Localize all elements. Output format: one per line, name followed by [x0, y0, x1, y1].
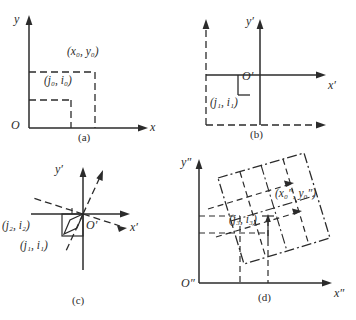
- x-axis-arrowhead: [316, 72, 326, 79]
- dashed-left-arrowhead: [203, 19, 210, 29]
- panel-b: y′ x′ O′ (j₁, i₁) (b): [178, 0, 356, 150]
- sample-point-arrowhead: [265, 214, 271, 222]
- panel-a-y-axis-label: y: [14, 12, 19, 27]
- panel-c-drawing: [0, 150, 178, 320]
- panel-c-x-axis-label: x′: [130, 220, 138, 235]
- x-axis-arrowhead: [138, 125, 148, 132]
- panel-d-x-axis-label: x″: [334, 286, 344, 301]
- panel-d-origin-label: O″: [181, 276, 195, 291]
- panel-c-origin-label: O′: [86, 218, 97, 233]
- rotated-x-axis-negative: [33, 198, 83, 214]
- panel-a-point-ji-label: (j₀, i₀): [44, 74, 72, 86]
- panel-d-caption: (d): [258, 291, 271, 303]
- figure-root: y x O (x₀, y₀) (j₀, i₀) (a) y′ x′ O′ (: [0, 0, 356, 320]
- rotated-x-axis-arrowhead: [117, 225, 127, 232]
- y-axis-arrowhead: [80, 167, 87, 177]
- panel-c-y-axis-label: y′: [55, 162, 63, 177]
- dashed-bottom-arrowhead: [316, 122, 326, 129]
- panel-b-y-axis-label: y′: [246, 14, 254, 29]
- panel-a-origin-label: O: [11, 118, 20, 133]
- panel-b-caption: (b): [250, 128, 263, 140]
- x-axis-arrowhead: [120, 211, 130, 218]
- panel-d-point-xy-label: (x₀″, y₀″): [275, 187, 316, 199]
- panel-a-point-xy-label: (x₀, y₀): [67, 45, 99, 57]
- panel-b-drawing: [178, 0, 356, 150]
- panel-c-point-ji-1-label: (j₁, i₁): [20, 239, 48, 251]
- x-axis-arrowhead: [322, 280, 332, 287]
- dashed-lattice-line-4: [283, 159, 309, 245]
- panel-b-x-axis-label: x′: [328, 78, 336, 93]
- y-axis-arrowhead: [257, 19, 264, 29]
- panel-d-y-axis-label: y″: [181, 155, 191, 170]
- y-axis-arrowhead: [196, 159, 203, 169]
- panel-a: y x O (x₀, y₀) (j₀, i₀) (a): [0, 0, 178, 150]
- panel-c: y′ x′ O′ (j₂, i₂) (j₁, i₁) (c): [0, 150, 178, 320]
- rotated-y-axis-arrowhead: [96, 170, 103, 181]
- panel-d-point-ji-label: (j₃, i₃): [229, 213, 257, 225]
- panel-a-x-axis-label: x: [150, 120, 155, 135]
- rotated-cell-outline: [64, 214, 83, 234]
- panel-b-origin-label: O′: [242, 69, 253, 84]
- y-axis-arrowhead: [26, 15, 33, 25]
- panel-c-caption: (c): [72, 294, 84, 306]
- panel-a-caption: (a): [78, 131, 90, 143]
- panel-b-point-ji-label: (j₁, i₁): [210, 96, 238, 108]
- panel-d: y″ x″ O″ (x₀″, y₀″) (j₃, i₃) (d): [178, 150, 356, 320]
- rotated-y-axis-dashed: [83, 177, 100, 214]
- panel-c-point-ji-2-label: (j₂, i₂): [2, 219, 30, 231]
